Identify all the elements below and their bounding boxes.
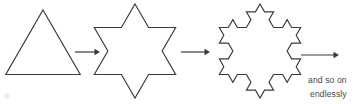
koch-snowflake-diagram: and so on endlessly — [0, 0, 356, 104]
scan-artifact-speck — [4, 93, 9, 98]
caption-line-1: and so on — [308, 75, 347, 85]
caption-line-2: endlessly — [310, 89, 347, 99]
diagram-background — [0, 0, 356, 104]
diagram-canvas: and so on endlessly — [0, 0, 356, 104]
